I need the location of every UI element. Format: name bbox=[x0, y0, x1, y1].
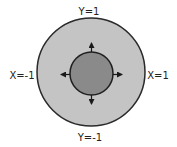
label-bottom: Y=-1 bbox=[77, 132, 102, 143]
inner-circle bbox=[70, 52, 113, 95]
label-top: Y=1 bbox=[78, 6, 100, 17]
label-left: X=-1 bbox=[9, 70, 34, 81]
label-right: X=1 bbox=[147, 70, 169, 81]
boundary-diagram: Y=1 Y=-1 X=-1 X=1 bbox=[0, 0, 177, 147]
